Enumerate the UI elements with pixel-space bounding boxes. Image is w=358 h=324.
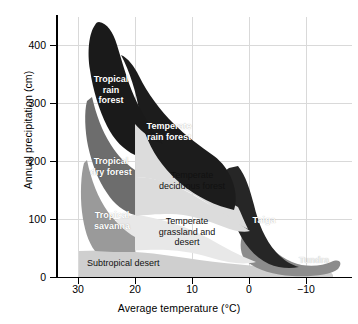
y-axis-title: Annual precipitation (cm) (22, 50, 34, 210)
whittaker-biome-chart: 400 300 200 100 0 30 20 10 0 −10 Annual … (0, 0, 358, 324)
x-tick-30: 30 (61, 283, 95, 295)
x-tick-20: 20 (118, 283, 152, 295)
biome-plot-area (0, 0, 358, 324)
x-tick-neg-10: −10 (289, 283, 323, 295)
y-tick-0: 0 (12, 271, 46, 283)
y-tick-100: 100 (12, 213, 46, 225)
x-tick-0: 0 (232, 283, 266, 295)
x-tick-10: 10 (175, 283, 209, 295)
x-axis-title: Average temperature (°C) (0, 302, 358, 314)
